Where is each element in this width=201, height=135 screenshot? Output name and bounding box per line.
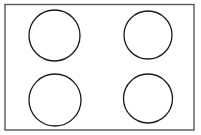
burner-bottom-right[interactable] — [124, 74, 173, 123]
diagram-canvas — [0, 0, 201, 135]
burner-bottom-left[interactable] — [29, 74, 81, 126]
cooktop-diagram — [0, 0, 201, 135]
burner-top-right[interactable] — [124, 11, 172, 59]
burner-top-left[interactable] — [29, 10, 80, 61]
